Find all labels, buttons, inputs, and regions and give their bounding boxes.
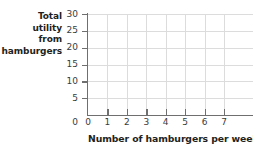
gridline-horizontal: [88, 65, 253, 66]
x-axis-tick-label: 7: [214, 118, 234, 127]
gridline-vertical: [166, 14, 167, 115]
gridline-vertical: [224, 14, 225, 115]
gridline-vertical: [127, 14, 128, 115]
x-axis-tick-label: 3: [136, 118, 156, 127]
y-axis-tick-mark: [82, 31, 88, 32]
x-axis-tick-mark: [185, 109, 186, 115]
chart-figure: Total utility from hamburgers 30 25 20 1…: [0, 0, 253, 156]
x-axis-tick-label: 5: [175, 118, 195, 127]
gridline-horizontal: [88, 48, 253, 49]
x-axis-tick-mark: [127, 109, 128, 115]
y-axis-tick-label: 30: [54, 10, 78, 19]
x-axis-tick-label: 1: [97, 118, 117, 127]
y-axis-tick-label: 15: [54, 60, 78, 69]
y-axis-tick-label: 0: [54, 118, 78, 127]
y-axis-tick-label: 25: [54, 26, 78, 35]
y-axis-tick-mark: [82, 98, 88, 99]
x-axis-tick-mark: [205, 109, 206, 115]
y-axis-title-line-4: hamburgers: [0, 46, 62, 58]
y-axis-tick-mark: [82, 81, 88, 82]
y-axis-tick-mark: [82, 48, 88, 49]
gridline-horizontal: [88, 14, 253, 15]
gridline-horizontal: [88, 81, 253, 82]
x-axis-tick-label: 6: [195, 118, 215, 127]
y-axis-tick-label: 10: [54, 77, 78, 86]
x-axis-tick-mark: [146, 109, 147, 115]
x-axis-line: [87, 115, 253, 116]
gridline-vertical: [107, 14, 108, 115]
gridline-horizontal: [88, 31, 253, 32]
y-axis-tick-label: 20: [54, 43, 78, 52]
plot-area: [88, 14, 253, 115]
x-axis-tick-label: 4: [156, 118, 176, 127]
gridline-vertical: [205, 14, 206, 115]
gridline-vertical: [185, 14, 186, 115]
x-axis-tick-mark: [107, 109, 108, 115]
y-axis-tick-label: 5: [54, 94, 78, 103]
x-axis-title: Number of hamburgers per weel: [88, 133, 253, 144]
y-axis-title-line-3: from: [0, 34, 62, 46]
x-axis-tick-label: 0: [78, 118, 98, 127]
y-axis-title-line-1: Total: [0, 11, 62, 23]
y-axis-tick-mark: [82, 65, 88, 66]
y-axis-title: Total utility from hamburgers: [0, 11, 62, 57]
gridline-vertical: [146, 14, 147, 115]
gridline-horizontal: [88, 98, 253, 99]
x-axis-tick-mark: [166, 109, 167, 115]
x-axis-tick-mark: [224, 109, 225, 115]
y-axis-title-line-2: utility: [0, 23, 62, 35]
x-axis-tick-label: 2: [117, 118, 137, 127]
y-axis-tick-mark: [82, 14, 88, 15]
